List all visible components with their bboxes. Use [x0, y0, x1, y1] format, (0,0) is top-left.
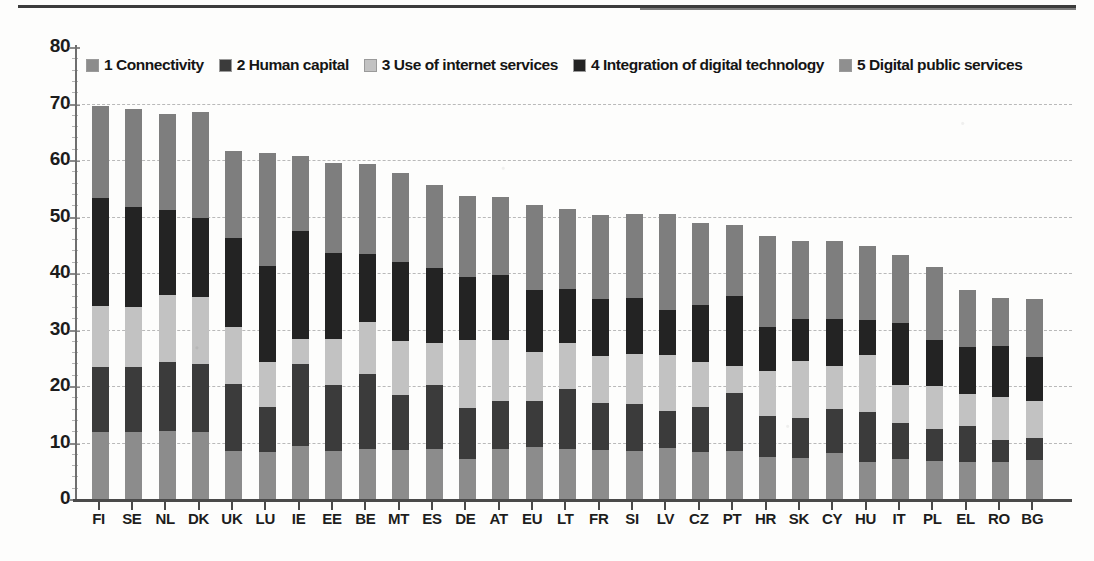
scanned-page: 1 Connectivity 2 Human capital 3 Use of … [0, 0, 1094, 561]
x-axis-label-lt: LT [548, 510, 582, 527]
bar-segment-5 [259, 153, 276, 267]
bar-segment-2 [426, 385, 443, 449]
x-axis-tick-mark [598, 499, 600, 510]
bar-se[interactable] [125, 109, 142, 500]
x-axis-label-ee: EE [315, 510, 349, 527]
bar-segment-2 [592, 403, 609, 449]
bar-de[interactable] [459, 196, 476, 500]
bar-segment-5 [292, 156, 309, 231]
desi-stacked-bar-chart: 1 Connectivity 2 Human capital 3 Use of … [0, 0, 1094, 561]
bar-segment-3 [125, 307, 142, 367]
x-axis-label-lv: LV [648, 510, 682, 527]
x-axis-tick-mark [631, 499, 633, 510]
bar-segment-5 [159, 114, 176, 211]
bar-segment-1 [1026, 460, 1043, 500]
y-axis-tick-label: 80 [28, 35, 70, 57]
bar-segment-1 [659, 448, 676, 500]
bar-cy[interactable] [826, 241, 843, 500]
bar-segment-3 [459, 340, 476, 409]
x-axis-tick-mark [198, 499, 200, 510]
bar-segment-5 [225, 151, 242, 239]
x-axis-label-cz: CZ [682, 510, 716, 527]
y-axis-tick-label: 30 [28, 318, 70, 340]
bar-segment-4 [659, 310, 676, 355]
bar-eu[interactable] [526, 205, 543, 500]
x-axis-tick-mark [464, 499, 466, 510]
bar-segment-1 [526, 447, 543, 500]
bar-pl[interactable] [926, 267, 943, 500]
bar-ro[interactable] [992, 298, 1009, 500]
bar-segment-5 [92, 106, 109, 198]
bar-hu[interactable] [859, 246, 876, 500]
bar-mt[interactable] [392, 173, 409, 500]
bar-pt[interactable] [726, 225, 743, 500]
bar-fi[interactable] [92, 106, 109, 500]
bar-segment-2 [992, 440, 1009, 463]
bar-segment-2 [792, 418, 809, 459]
bar-segment-3 [192, 297, 209, 365]
bar-segment-4 [759, 327, 776, 372]
bar-segment-1 [259, 452, 276, 500]
bar-segment-4 [359, 254, 376, 322]
bar-fr[interactable] [592, 215, 609, 500]
bar-segment-4 [626, 298, 643, 354]
bar-el[interactable] [959, 290, 976, 500]
bar-lt[interactable] [559, 209, 576, 501]
bar-segment-3 [726, 366, 743, 393]
x-axis-label-ro: RO [982, 510, 1016, 527]
x-axis-label-dk: DK [182, 510, 216, 527]
bar-si[interactable] [626, 214, 643, 500]
x-axis-tick-mark [364, 499, 366, 510]
bar-segment-4 [992, 346, 1009, 396]
x-axis-tick-mark [164, 499, 166, 510]
bar-lv[interactable] [659, 214, 676, 500]
bar-lu[interactable] [259, 153, 276, 500]
bar-segment-3 [792, 361, 809, 418]
bar-segment-5 [759, 236, 776, 327]
bar-segment-3 [926, 386, 943, 429]
x-axis-tick-mark [264, 499, 266, 510]
bar-nl[interactable] [159, 114, 176, 500]
bar-segment-2 [626, 404, 643, 451]
bar-segment-1 [292, 446, 309, 500]
bar-be[interactable] [359, 164, 376, 500]
bar-segment-3 [225, 327, 242, 384]
x-axis-label-uk: UK [215, 510, 249, 527]
bar-segment-1 [892, 459, 909, 500]
bar-hr[interactable] [759, 236, 776, 500]
x-axis-tick-mark [798, 499, 800, 510]
bar-segment-1 [359, 449, 376, 500]
bar-ee[interactable] [325, 163, 342, 500]
bar-it[interactable] [892, 255, 909, 500]
bar-segment-5 [1026, 299, 1043, 357]
bar-segment-5 [125, 109, 142, 207]
bar-segment-4 [826, 319, 843, 365]
bar-cz[interactable] [692, 223, 709, 500]
bar-dk[interactable] [192, 112, 209, 500]
bar-segment-2 [92, 367, 109, 433]
bar-bg[interactable] [1026, 299, 1043, 500]
x-axis-label-nl: NL [148, 510, 182, 527]
x-axis-tick-mark [865, 499, 867, 510]
bar-segment-5 [692, 223, 709, 305]
bar-segment-2 [759, 416, 776, 457]
bar-segment-1 [459, 459, 476, 500]
bar-at[interactable] [492, 197, 509, 500]
bar-segment-1 [992, 462, 1009, 500]
bar-segment-2 [359, 374, 376, 449]
bar-ie[interactable] [292, 156, 309, 500]
bar-uk[interactable] [225, 151, 242, 500]
x-axis-tick-mark [431, 499, 433, 510]
x-axis-tick-mark [498, 499, 500, 510]
bar-segment-2 [726, 393, 743, 451]
bar-sk[interactable] [792, 241, 809, 500]
x-axis-tick-mark [898, 499, 900, 510]
bar-segment-5 [626, 214, 643, 298]
x-axis-label-lu: LU [248, 510, 282, 527]
bar-segment-3 [92, 306, 109, 367]
bar-es[interactable] [426, 185, 443, 500]
bar-segment-1 [759, 457, 776, 500]
bar-segment-1 [959, 462, 976, 500]
x-axis-label-es: ES [415, 510, 449, 527]
x-axis-label-hu: HU [849, 510, 883, 527]
